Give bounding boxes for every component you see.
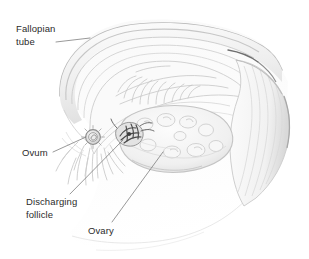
label-discharging-follicle: Discharging follicle bbox=[26, 196, 77, 221]
label-ovary: Ovary bbox=[88, 225, 114, 238]
illustration-page: Fallopian tube Ovum Discharging follicle… bbox=[0, 0, 309, 259]
label-ovum: Ovum bbox=[22, 147, 48, 160]
label-fallopian-tube: Fallopian tube bbox=[16, 23, 55, 48]
